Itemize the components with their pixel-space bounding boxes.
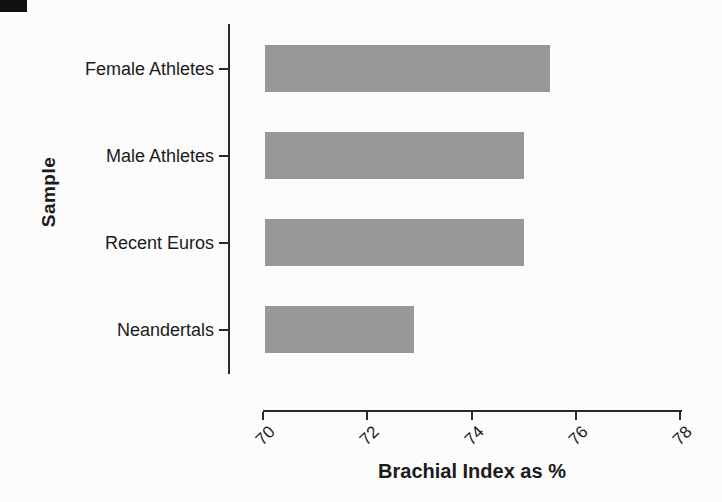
scan-artifact-mark [0, 0, 27, 12]
category-tick-neandertals [219, 329, 229, 331]
x-tick-label-78: 78 [670, 423, 696, 449]
category-label-neandertals: Neandertals [0, 319, 214, 341]
x-tick-label-70: 70 [253, 423, 279, 449]
x-axis-title: Brachial Index as % [263, 458, 681, 484]
x-tick-74 [471, 412, 473, 420]
category-tick-female-athletes [219, 68, 229, 70]
bar-female-athletes [265, 45, 550, 92]
x-tick-label-72: 72 [357, 423, 383, 449]
x-axis-line [263, 410, 682, 412]
y-axis-line [228, 24, 230, 374]
category-label-male-athletes: Male Athletes [0, 145, 214, 167]
category-label-recent-euros: Recent Euros [0, 232, 214, 254]
x-tick-76 [575, 412, 577, 420]
x-tick-72 [366, 412, 368, 420]
x-tick-label-74: 74 [461, 423, 487, 449]
category-label-female-athletes: Female Athletes [0, 58, 214, 80]
bar-recent-euros [265, 219, 524, 266]
category-tick-male-athletes [219, 155, 229, 157]
category-tick-recent-euros [219, 242, 229, 244]
bar-neandertals [265, 306, 414, 353]
brachial-index-bar-chart: Sample Female AthletesMale AthletesRecen… [0, 0, 722, 502]
x-tick-label-76: 76 [565, 423, 591, 449]
x-tick-70 [262, 412, 264, 420]
x-tick-78 [679, 412, 681, 420]
bar-male-athletes [265, 132, 524, 179]
